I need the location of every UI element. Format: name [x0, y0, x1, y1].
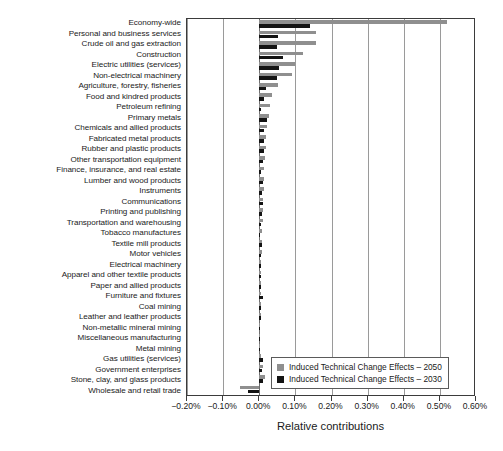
bar-2030: [259, 379, 262, 383]
category-label: Government enterprises: [0, 365, 186, 376]
category-label: Motor vehicles: [0, 249, 186, 260]
x-tick-label: 0.00%: [246, 401, 270, 411]
bar-row: [187, 113, 474, 123]
category-label: Leather and leather products: [0, 312, 186, 323]
category-label: Personal and business services: [0, 29, 186, 40]
bar-2030: [259, 233, 260, 237]
bar-row: [187, 50, 474, 60]
bar-2030: [259, 181, 262, 185]
x-tick-label: −0.10%: [207, 401, 236, 411]
bar-row: [187, 270, 474, 280]
bar-2030: [259, 35, 278, 39]
category-label: Furniture and fixtures: [0, 291, 186, 302]
category-label: Lumber and wood products: [0, 176, 186, 187]
bar-row: [187, 343, 474, 353]
bar-row: [187, 322, 474, 332]
bar-2030: [259, 24, 310, 28]
category-label: Gas utilities (services): [0, 354, 186, 365]
bar-row: [187, 332, 474, 342]
bar-row: [187, 280, 474, 290]
x-tick-label: −0.20%: [171, 401, 200, 411]
plot-area: [186, 18, 475, 396]
bar-2030: [259, 118, 267, 122]
category-label: Crude oil and gas extraction: [0, 39, 186, 50]
category-label: Coal mining: [0, 302, 186, 313]
bar-row: [187, 144, 474, 154]
bar-2030: [259, 202, 263, 206]
bar-row: [187, 290, 474, 300]
bar-2030: [259, 254, 261, 258]
x-axis-title: Relative contributions: [186, 420, 475, 432]
bar-2030: [259, 337, 260, 341]
bar-2030: [259, 149, 263, 153]
category-label: Fabricated metal products: [0, 134, 186, 145]
category-label: Stone, clay, and glass products: [0, 375, 186, 386]
bar-row: [187, 29, 474, 39]
bar-row: [187, 176, 474, 186]
bar-2030: [259, 45, 277, 49]
bar-row: [187, 134, 474, 144]
bar-2030: [259, 348, 260, 352]
bar-row: [187, 249, 474, 259]
bar-2030: [259, 275, 260, 279]
legend-swatch-icon: [277, 364, 284, 371]
category-label: Instruments: [0, 186, 186, 197]
category-label: Agriculture, forestry, fisheries: [0, 81, 186, 92]
bar-row: [187, 165, 474, 175]
bar-row: [187, 207, 474, 217]
x-axis-tick-labels: −0.20%−0.10%0.00%0.10%0.20%0.30%0.40%0.5…: [186, 401, 475, 415]
bar-row: [187, 103, 474, 113]
category-label: Miscellaneous manufacturing: [0, 333, 186, 344]
bar-row: [187, 311, 474, 321]
category-label: Rubber and plastic products: [0, 144, 186, 155]
category-label: Primary metals: [0, 113, 186, 124]
x-tick-label: 0.60%: [463, 401, 487, 411]
bar-2030: [259, 87, 266, 91]
bar-2030: [248, 390, 259, 394]
bar-row: [187, 40, 474, 50]
bar-row: [187, 19, 474, 29]
bar-row: [187, 238, 474, 248]
bar-row: [187, 301, 474, 311]
category-label: Metal mining: [0, 344, 186, 355]
category-label: Electrical machinery: [0, 260, 186, 271]
bar-2030: [259, 191, 262, 195]
bar-2030: [259, 170, 260, 174]
category-label: Wholesale and retail trade: [0, 386, 186, 397]
bar-2030: [259, 108, 261, 112]
bar-row: [187, 71, 474, 81]
x-tick-label: 0.20%: [318, 401, 342, 411]
legend-label: Induced Technical Change Effects – 2050: [289, 362, 442, 372]
bar-2030: [259, 56, 283, 60]
bar-row: [187, 259, 474, 269]
category-label: Paper and allied products: [0, 281, 186, 292]
x-tick-label: 0.30%: [354, 401, 378, 411]
bar-2030: [259, 369, 262, 373]
chart-legend: Induced Technical Change Effects – 2050I…: [271, 357, 449, 389]
x-tick-label: 0.10%: [282, 401, 306, 411]
bar-row: [187, 186, 474, 196]
bar-2030: [259, 139, 264, 143]
category-label: Food and kindred products: [0, 92, 186, 103]
bar-row: [187, 82, 474, 92]
category-label: Communications: [0, 197, 186, 208]
bar-2030: [259, 296, 262, 300]
category-label: Finance, insurance, and real estate: [0, 165, 186, 176]
legend-swatch-icon: [277, 376, 284, 383]
category-label: Economy-wide: [0, 18, 186, 29]
category-label: Other transportation equipment: [0, 155, 186, 166]
bar-2030: [259, 66, 279, 70]
category-axis-labels: Economy-widePersonal and business servic…: [0, 18, 186, 396]
bar-row: [187, 61, 474, 71]
bar-2030: [259, 327, 260, 331]
bar-2030: [259, 97, 263, 101]
category-label: Petroleum refining: [0, 102, 186, 113]
category-label: Electric utilities (services): [0, 60, 186, 71]
category-label: Non-electrical machinery: [0, 71, 186, 82]
bar-2030: [259, 264, 260, 268]
category-label: Apparel and other textile products: [0, 270, 186, 281]
legend-item: Induced Technical Change Effects – 2030: [277, 373, 442, 385]
x-tick-label: 0.40%: [391, 401, 415, 411]
category-label: Construction: [0, 50, 186, 61]
bar-row: [187, 228, 474, 238]
